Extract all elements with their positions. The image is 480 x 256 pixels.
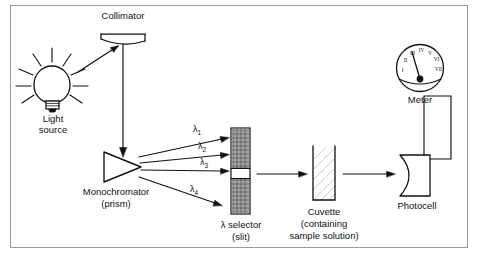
light-source-bulb [16, 48, 88, 112]
svg-text:VI: VI [434, 56, 440, 62]
cuvette [313, 146, 335, 200]
arrow-source-to-collimator [78, 46, 118, 72]
label-collimator: Collimator [85, 10, 161, 21]
label-selector-line1: λ selector [196, 219, 286, 230]
label-cuvette-line2: (containing [278, 218, 370, 229]
monochromator-prism [104, 152, 141, 182]
svg-text:VII: VII [435, 66, 442, 72]
label-photocell: Photocell [386, 200, 448, 211]
diagram-canvas: I II III IV V VI VII Collimator Light so… [0, 0, 480, 256]
arrow-collimator-to-prism [120, 44, 127, 157]
meter-dial: I II III IV V VI VII [397, 45, 444, 92]
label-meter: Meter [396, 94, 444, 105]
label-cuvette-line3: sample solution) [272, 230, 376, 241]
label-lambda-1: λ1 [193, 124, 201, 136]
svg-text:I: I [402, 67, 404, 73]
photocell [400, 155, 430, 196]
svg-text:III: III [410, 50, 415, 56]
label-lambda-4: λ4 [190, 184, 198, 196]
lambda-selector-slit [231, 128, 250, 214]
ray-lambda-1 [139, 137, 229, 157]
wire-photocell-to-meter [424, 96, 451, 159]
arrow-cuvette-to-photocell [343, 171, 395, 177]
label-lambda-2: λ2 [198, 141, 206, 153]
label-monochromator-line1: Monochromator [60, 186, 172, 197]
svg-text:IV: IV [419, 47, 425, 53]
label-monochromator-line2: (prism) [60, 198, 172, 209]
label-cuvette-line1: Cuvette [284, 206, 364, 217]
collimator-mirror [101, 34, 145, 44]
label-light-source-line2: source [20, 124, 86, 135]
ray-lambda-3 [141, 168, 229, 174]
label-lambda-3: λ3 [200, 157, 208, 169]
label-light-source-line1: Light [20, 113, 86, 124]
arrow-slit-to-cuvette [257, 171, 307, 177]
svg-text:II: II [404, 57, 408, 63]
svg-text:V: V [428, 50, 432, 56]
light-rays [16, 48, 88, 103]
